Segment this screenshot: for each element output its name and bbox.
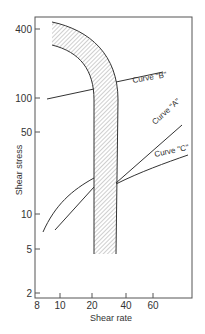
x-tick-40: 40 xyxy=(120,300,132,311)
y-tick-400: 400 xyxy=(15,24,32,35)
shear-chart: Curve "B" Curve "A" Curve "C" 400 100 50… xyxy=(0,0,205,334)
x-axis-ticks xyxy=(60,293,153,298)
x-tick-10: 10 xyxy=(54,300,66,311)
band-inner-edge xyxy=(52,45,94,254)
y-tick-100: 100 xyxy=(15,93,32,104)
y-tick-50: 50 xyxy=(21,127,33,138)
x-tick-60: 60 xyxy=(147,300,159,311)
x-tick-20: 20 xyxy=(86,300,98,311)
y-tick-2: 2 xyxy=(26,288,32,299)
curve-lower-upper xyxy=(43,178,94,232)
y-axis-label: Shear stress xyxy=(14,144,24,195)
curve-lower-lower xyxy=(55,187,94,230)
y-axis-ticks xyxy=(35,29,40,293)
curve-c-line xyxy=(116,155,188,184)
y-tick-10: 10 xyxy=(21,209,33,220)
hatched-band xyxy=(52,22,118,254)
x-axis-label: Shear rate xyxy=(90,313,132,323)
x-tick-8: 8 xyxy=(34,300,40,311)
y-tick-5: 5 xyxy=(26,244,32,255)
curve-b-label: Curve "B" xyxy=(132,70,168,85)
curve-a-label: Curve "A" xyxy=(150,97,182,127)
